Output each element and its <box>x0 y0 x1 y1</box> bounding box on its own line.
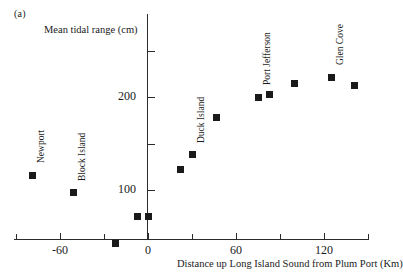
x-tick-minor <box>280 234 281 239</box>
data-point <box>291 80 298 87</box>
data-point <box>328 74 335 81</box>
y-tick-label: 100 <box>96 182 136 197</box>
x-tick-label: -60 <box>38 243 82 258</box>
y-axis-line <box>147 14 148 240</box>
y-tick-label: 200 <box>96 89 136 104</box>
y-tick-minor <box>148 51 155 52</box>
data-point <box>177 166 184 173</box>
data-point <box>255 94 262 101</box>
data-point <box>134 213 141 220</box>
x-tick-minor <box>104 234 105 239</box>
panel-label: (a) <box>14 8 26 19</box>
x-tick-label: 120 <box>302 243 346 258</box>
x-tick-minor <box>192 234 193 239</box>
y-tick-major <box>148 97 155 98</box>
data-point <box>112 240 119 247</box>
x-tick-label: 60 <box>214 243 258 258</box>
data-point-label: Newport <box>36 130 46 163</box>
x-tick-major <box>60 233 61 239</box>
x-tick-major <box>236 233 237 239</box>
data-point <box>351 82 358 89</box>
data-point <box>29 172 36 179</box>
data-point-label: Port Jefferson <box>262 32 272 85</box>
x-tick-major <box>324 233 325 239</box>
y-tick-major <box>148 190 155 191</box>
data-point <box>213 114 220 121</box>
y-tick-minor <box>148 144 155 145</box>
x-axis-line <box>14 239 369 240</box>
data-point <box>266 91 273 98</box>
x-tick-label: 0 <box>126 243 170 258</box>
x-tick-minor <box>16 234 17 239</box>
data-point <box>70 189 77 196</box>
data-point <box>189 151 196 158</box>
data-point-label: Block Island <box>77 132 87 180</box>
y-axis-title: Mean tidal range (cm) <box>44 24 138 35</box>
x-tick-minor <box>368 234 369 239</box>
data-point-label: Glen Cove <box>335 25 345 66</box>
x-tick-major <box>148 233 149 239</box>
data-point <box>145 213 152 220</box>
data-point-label: Duck Island <box>196 96 206 142</box>
x-axis-title: Distance up Long Island Sound from Plum … <box>177 258 403 269</box>
